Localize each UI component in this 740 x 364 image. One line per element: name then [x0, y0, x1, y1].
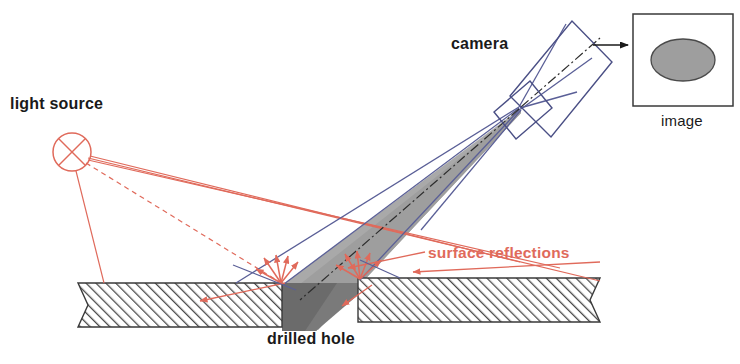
- diagram-canvas: light source camera image drilled hole s…: [0, 0, 740, 364]
- light-source-symbol: [53, 133, 91, 171]
- image-hole-ellipse: [651, 39, 715, 81]
- optical-axis: [300, 109, 519, 300]
- label-image: image: [661, 113, 703, 128]
- label-drilled-hole: drilled hole: [267, 331, 355, 347]
- image-box: [633, 14, 733, 106]
- schematic-svg: [0, 0, 740, 364]
- label-camera: camera: [451, 36, 508, 52]
- workpiece-right-plate: [358, 278, 600, 322]
- label-light-source: light source: [10, 96, 103, 112]
- drilled-hole-cavity: [282, 283, 358, 331]
- camera-icon[interactable]: [494, 21, 612, 139]
- label-surface-reflections: surface reflections: [428, 245, 570, 261]
